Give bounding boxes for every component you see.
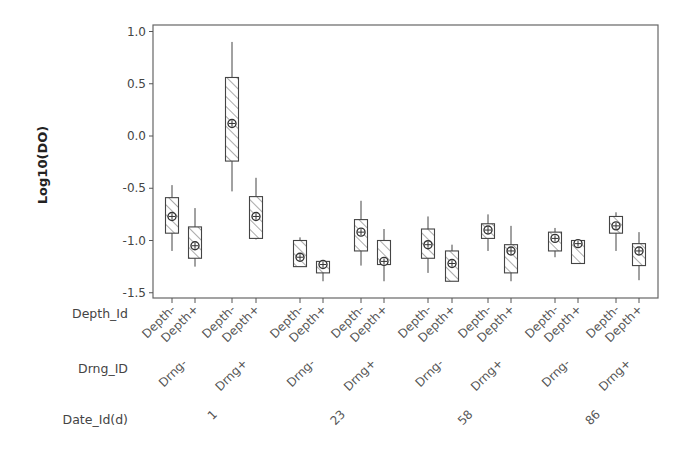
box-86-Drng--Depth- [549, 228, 562, 303]
date-tick-label: 23 [327, 407, 348, 428]
box-58-Drng+-Depth+ [505, 226, 518, 303]
box-1-Drng+-Depth+ [250, 178, 263, 303]
box-23-Drng+-Depth- [355, 201, 368, 303]
y-tick-label: 0.5 [127, 77, 146, 91]
box-58-Drng--Depth+ [446, 245, 459, 303]
box-23-Drng+-Depth+ [378, 229, 391, 303]
factor-row-label-date_id: Date_Id(d) [63, 412, 128, 427]
y-tick-label: 0.0 [127, 129, 146, 143]
drainage-tick-label: Drng+ [212, 356, 250, 394]
y-tick-label: -1.5 [123, 286, 146, 300]
box-86-Drng+-Depth- [610, 212, 623, 303]
y-tick-label: 1.0 [127, 25, 146, 39]
drainage-tick-label: Drng+ [596, 356, 634, 394]
box-86-Drng+-Depth+ [633, 232, 646, 303]
date-tick-label: 86 [582, 407, 603, 428]
y-axis-label: Log10(DO) [35, 126, 50, 204]
box-23-Drng--Depth+ [317, 260, 330, 303]
drainage-tick-label: Drng- [284, 356, 318, 390]
box-86-Drng--Depth+ [572, 240, 585, 303]
box-1-Drng--Depth+ [189, 208, 202, 303]
drainage-tick-label: Drng+ [468, 356, 506, 394]
drainage-tick-label: Drng- [156, 356, 190, 390]
box-58-Drng+-Depth- [482, 214, 495, 303]
box-1-Drng+-Depth- [226, 42, 239, 303]
date-tick-label: 58 [455, 407, 476, 428]
box-plot-chart: 1.00.50.0-0.5-1.0-1.5 Depth_IdDrng_IDDat… [0, 0, 692, 458]
x-axis-factor-labels: Depth_IdDrng_IDDate_Id(d)Depth-Depth+Dep… [63, 302, 646, 428]
boxes-group [166, 42, 646, 303]
y-tick-label: -0.5 [123, 181, 146, 195]
factor-row-label-drng_id: Drng_ID [78, 361, 128, 376]
drainage-tick-label: Drng+ [341, 356, 379, 394]
box-1-Drng--Depth- [166, 185, 179, 303]
date-tick-label: 1 [205, 407, 220, 422]
y-tick-label: -1.0 [123, 234, 146, 248]
box-23-Drng--Depth- [294, 237, 307, 303]
drainage-tick-label: Drng- [539, 356, 573, 390]
y-axis: 1.00.50.0-0.5-1.0-1.5 [123, 25, 153, 300]
drainage-tick-label: Drng- [413, 356, 447, 390]
factor-row-label-depth_id: Depth_Id [72, 306, 128, 321]
box-58-Drng--Depth- [422, 216, 435, 303]
